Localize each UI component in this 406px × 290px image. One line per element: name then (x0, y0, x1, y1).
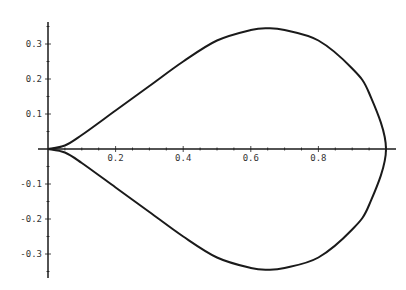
y-tick-label: 0.1 (26, 109, 42, 119)
y-tick-label: 0.3 (26, 39, 42, 49)
y-tick-label: -0.2 (20, 214, 42, 224)
teardrop-plot: 0.20.40.60.80.30.20.1-0.1-0.2-0.3 (0, 0, 406, 290)
x-tick-label: 0.8 (310, 153, 326, 163)
x-tick-label: 0.2 (107, 153, 123, 163)
x-tick-label: 0.4 (175, 153, 191, 163)
y-tick-label: 0.2 (26, 74, 42, 84)
x-tick-label: 0.6 (243, 153, 259, 163)
y-tick-label: -0.3 (20, 249, 42, 259)
y-tick-label: -0.1 (20, 179, 42, 189)
